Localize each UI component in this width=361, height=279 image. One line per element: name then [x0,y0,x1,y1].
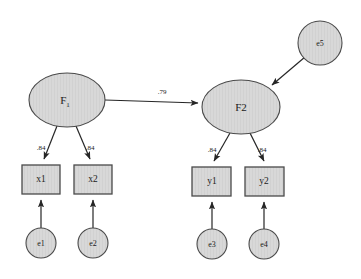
error-term-e4-label: e4 [260,240,268,249]
path-f1-to-x1: .84 [37,126,57,159]
error-term-e1-label: e1 [37,239,45,248]
sem-diagram-svg: .79 .84 .84 .84 .84 [0,0,361,279]
observed-variable-y2[interactable]: y2 [245,167,284,196]
sem-diagram-canvas: .79 .84 .84 .84 .84 [0,0,361,279]
path-f2-to-y2: .84 [250,133,267,161]
observed-variable-x2[interactable]: x2 [74,165,112,194]
latent-factor-f2-label: F2 [235,101,247,113]
error-term-e2-label: e2 [89,239,97,248]
observed-variable-x1[interactable]: x1 [22,165,60,194]
observed-variable-y1-label: y1 [207,176,217,186]
observed-variable-y1[interactable]: y1 [192,167,231,196]
path-coefficient-f1-x1: .84 [37,144,46,152]
error-term-e5[interactable]: e5 [298,21,342,65]
path-f1-to-x2: .84 [76,126,95,159]
error-term-e1[interactable]: e1 [26,228,56,258]
error-term-e2[interactable]: e2 [78,228,108,258]
path-coefficient-f2-y2: .84 [258,146,267,154]
error-term-e3[interactable]: e3 [197,229,227,259]
error-term-e5-label: e5 [316,39,324,48]
error-term-e3-label: e3 [208,240,216,249]
observed-variable-x1-label: x1 [36,174,46,184]
path-coefficient-f1-x2: .84 [86,144,95,152]
latent-factor-f2[interactable]: F2 [202,80,280,134]
path-f1-to-f2: .79 [105,88,198,103]
observed-variable-x2-label: x2 [88,174,98,184]
path-e5-to-f2 [272,57,305,85]
path-coefficient-f1-f2: .79 [158,88,167,96]
latent-factor-f1[interactable]: F1 [29,73,105,127]
path-coefficient-f2-y1: .84 [208,146,217,154]
error-term-e4[interactable]: e4 [249,229,279,259]
path-f2-to-y1: .84 [208,133,230,161]
observed-variable-y2-label: y2 [259,176,269,186]
